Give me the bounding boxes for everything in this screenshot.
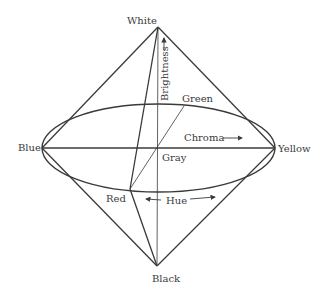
label-white: White bbox=[127, 15, 157, 26]
label-gray: Gray bbox=[162, 152, 187, 163]
label-green: Green bbox=[182, 93, 214, 104]
label-chroma: Chroma bbox=[184, 132, 224, 143]
label-blue: Blue bbox=[18, 142, 41, 153]
edge-black-red bbox=[130, 189, 157, 266]
label-red: Red bbox=[106, 193, 126, 204]
hue-arrow-left-icon bbox=[146, 199, 161, 200]
color-double-cone-diagram: Brightness Chroma Hue White Black Blue Y… bbox=[0, 0, 326, 292]
edge-white-yellow bbox=[158, 27, 275, 148]
label-hue: Hue bbox=[166, 195, 187, 206]
label-brightness: Brightness bbox=[159, 46, 170, 101]
label-black: Black bbox=[152, 273, 181, 284]
edge-black-yellow bbox=[157, 148, 275, 266]
label-yellow: Yellow bbox=[277, 143, 311, 154]
hue-arrow-right-icon bbox=[190, 197, 215, 199]
edge-black-blue bbox=[42, 148, 157, 266]
